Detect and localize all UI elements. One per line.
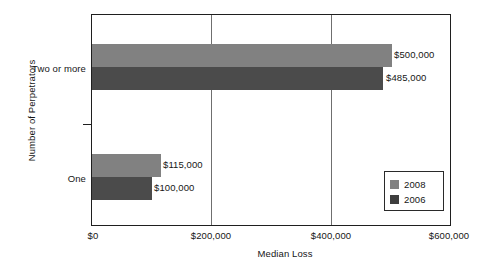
legend-label-2008: 2008 bbox=[404, 179, 426, 190]
median-loss-bar-chart: Number of Perpetrators Two or more One 2… bbox=[0, 0, 490, 276]
y-axis-title: Number of Perpetrators bbox=[26, 31, 37, 191]
legend-item-2008: 2008 bbox=[390, 177, 443, 192]
x-tick-label-600000: $600,000 bbox=[429, 230, 469, 241]
data-label-one-2008: $115,000 bbox=[163, 159, 203, 170]
category-label-two-or-more: Two or more bbox=[0, 63, 86, 74]
x-tick-label-400000: $400,000 bbox=[311, 230, 351, 241]
legend-label-2006: 2006 bbox=[404, 194, 426, 205]
y-axis-minor-tick bbox=[83, 124, 91, 125]
bar-two-or-more-2006 bbox=[92, 67, 383, 90]
data-label-two-or-more-2006: $485,000 bbox=[386, 72, 426, 83]
plot-area: 2008 2006 bbox=[91, 14, 451, 226]
bar-one-2008 bbox=[92, 154, 161, 177]
legend: 2008 2006 bbox=[384, 171, 444, 211]
x-axis-title-wrap: Median Loss bbox=[0, 248, 490, 259]
category-label-one: One bbox=[0, 173, 86, 184]
legend-swatch-2008-icon bbox=[390, 180, 399, 189]
x-tick-label-0: $0 bbox=[88, 230, 99, 241]
legend-item-2006: 2006 bbox=[390, 192, 443, 207]
x-tick-label-200000: $200,000 bbox=[191, 230, 231, 241]
data-label-one-2006: $100,000 bbox=[154, 182, 194, 193]
x-axis-title: Median Loss bbox=[258, 248, 313, 259]
bar-one-2006 bbox=[92, 177, 152, 200]
data-label-two-or-more-2008: $500,000 bbox=[394, 49, 434, 60]
bar-two-or-more-2008 bbox=[92, 44, 392, 67]
legend-swatch-2006-icon bbox=[390, 195, 399, 204]
